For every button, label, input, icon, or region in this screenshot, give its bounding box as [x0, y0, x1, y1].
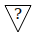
- question-mark-glyph: ?: [0, 6, 36, 22]
- unknown-triangle-icon: ?: [0, 0, 36, 37]
